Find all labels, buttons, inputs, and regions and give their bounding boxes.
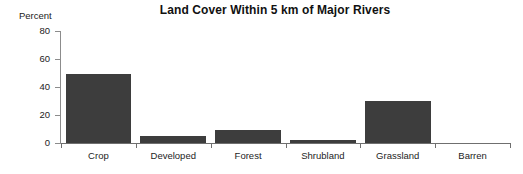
x-tick-mark: [435, 143, 436, 148]
x-tick-mark: [286, 143, 287, 148]
bar: [140, 136, 206, 143]
x-category-label: Grassland: [360, 150, 435, 161]
y-tick-label: 0: [0, 137, 50, 148]
y-axis-label: Percent: [19, 10, 52, 21]
x-axis-line: [60, 143, 510, 144]
y-tick-label: 80: [0, 25, 50, 36]
bar: [66, 74, 132, 143]
y-tick-label: 20: [0, 109, 50, 120]
y-tick-label: 40: [0, 81, 50, 92]
x-category-label: Barren: [435, 150, 510, 161]
x-category-label: Developed: [136, 150, 211, 161]
x-category-label: Shrubland: [286, 150, 361, 161]
x-tick-mark: [211, 143, 212, 148]
x-tick-mark: [61, 143, 62, 148]
bars-layer: [61, 31, 510, 143]
bar-chart: Land Cover Within 5 km of Major Rivers P…: [0, 0, 523, 174]
y-tick-label: 60: [0, 53, 50, 64]
bar: [215, 130, 281, 143]
x-tick-mark: [136, 143, 137, 148]
chart-title: Land Cover Within 5 km of Major Rivers: [100, 3, 450, 17]
x-tick-mark: [510, 143, 511, 148]
bar: [365, 101, 431, 143]
x-tick-mark: [360, 143, 361, 148]
x-category-label: Forest: [211, 150, 286, 161]
bar: [290, 140, 356, 143]
x-category-label: Crop: [61, 150, 136, 161]
